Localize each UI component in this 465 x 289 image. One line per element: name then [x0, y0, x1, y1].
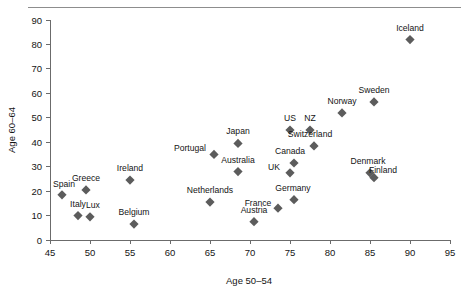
data-point-label: Australia [221, 155, 255, 165]
y-tick-label: 30 [31, 161, 42, 172]
y-tick-label: 40 [31, 137, 42, 148]
data-point-marker [209, 150, 218, 159]
data-point-marker [273, 204, 282, 213]
data-point-label: Sweden [358, 85, 389, 95]
data-point-marker [85, 212, 94, 221]
y-tick-label: 70 [31, 63, 42, 74]
x-axis-title: Age 50–54 [226, 275, 272, 286]
data-point-label: Norway [327, 96, 357, 106]
x-tick-label: 65 [205, 247, 216, 258]
data-point-label: Finland [369, 165, 397, 175]
data-point-label: Lux [86, 200, 101, 210]
data-point-marker [289, 158, 298, 167]
data-point-label: Netherlands [187, 185, 233, 195]
y-tick-label: 20 [31, 186, 42, 197]
x-axis: 4550556065707580859095 [45, 240, 456, 258]
data-point-marker [57, 190, 66, 199]
y-tick-label: 80 [31, 39, 42, 50]
data-point-label: Austria [241, 205, 268, 215]
data-point-label: Portugal [174, 143, 206, 153]
y-axis-title: Age 60–64 [6, 107, 17, 153]
data-point-label: Iceland [396, 23, 424, 33]
y-tick-label: 50 [31, 112, 42, 123]
data-point-label: US [284, 113, 296, 123]
x-tick-label: 75 [285, 247, 296, 258]
y-axis: 0102030405060708090 [31, 15, 50, 246]
data-point-label: Spain [53, 179, 75, 189]
y-tick-label: 60 [31, 88, 42, 99]
x-tick-label: 55 [125, 247, 136, 258]
x-tick-label: 90 [405, 247, 416, 258]
x-tick-label: 50 [85, 247, 96, 258]
y-tick-label: 90 [31, 15, 42, 26]
data-label-group: IcelandSwedenNorwayUSNZSwitzerlandJapanP… [53, 23, 424, 218]
data-point-marker [309, 141, 318, 150]
data-point-marker [73, 211, 82, 220]
data-point-marker [289, 195, 298, 204]
data-point-label: Japan [226, 126, 250, 136]
data-point-marker [369, 97, 378, 106]
data-point-marker [205, 198, 214, 207]
y-tick-label: 0 [37, 235, 42, 246]
y-tick-label: 10 [31, 210, 42, 221]
x-tick-label: 70 [245, 247, 256, 258]
data-point-label: Ireland [117, 163, 143, 173]
data-point-marker [233, 167, 242, 176]
data-point-label: Germany [275, 183, 311, 193]
data-point-marker [249, 217, 258, 226]
plot-canvas: 0102030405060708090 45505560657075808590… [0, 0, 465, 289]
data-point-marker [405, 35, 414, 44]
data-point-label: Belgium [118, 207, 149, 217]
y-tick-group: 0102030405060708090 [31, 15, 50, 246]
data-point-label: Italy [70, 199, 86, 209]
data-point-marker [125, 176, 134, 185]
data-point-marker [337, 108, 346, 117]
scatter-plot-figure: 0102030405060708090 45505560657075808590… [0, 0, 465, 289]
data-point-label: Canada [275, 146, 305, 156]
data-point-marker [233, 139, 242, 148]
x-tick-label: 80 [325, 247, 336, 258]
x-tick-label: 85 [365, 247, 376, 258]
data-point-marker [129, 220, 138, 229]
data-point-label: Greece [72, 173, 100, 183]
x-tick-label: 95 [445, 247, 456, 258]
data-point-label: UK [268, 162, 280, 172]
data-point-label: NZ [304, 113, 315, 123]
x-tick-group: 4550556065707580859095 [45, 240, 456, 258]
x-tick-label: 45 [45, 247, 56, 258]
x-tick-label: 60 [165, 247, 176, 258]
data-point-marker [285, 168, 294, 177]
data-point-label: Switzerland [288, 129, 333, 139]
data-point-marker [81, 185, 90, 194]
